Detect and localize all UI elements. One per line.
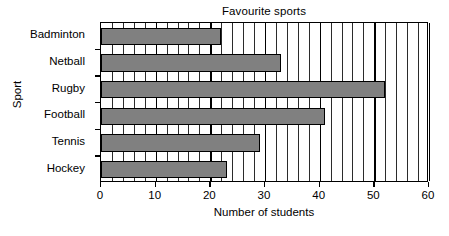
x-axis-title: Number of students bbox=[100, 205, 428, 219]
x-tick-label-0: 0 bbox=[80, 188, 120, 202]
y-tick-label-rugby: Rugby bbox=[52, 82, 85, 95]
x-axis-tick bbox=[319, 182, 320, 187]
x-tick-label-50: 50 bbox=[353, 188, 393, 202]
bar-rugby[interactable] bbox=[101, 81, 385, 99]
y-axis-title: Sport bbox=[11, 65, 24, 125]
x-axis-tick bbox=[264, 182, 265, 187]
y-tick-label-football: Football bbox=[44, 108, 85, 121]
bar-row bbox=[101, 81, 427, 99]
x-axis-tick bbox=[100, 182, 101, 187]
bar-badminton[interactable] bbox=[101, 28, 221, 46]
y-axis-tick bbox=[95, 129, 100, 130]
bars-layer bbox=[101, 23, 427, 181]
x-axis-tick bbox=[373, 182, 374, 187]
x-tick-label-30: 30 bbox=[244, 188, 284, 202]
x-tick-label-20: 20 bbox=[189, 188, 229, 202]
y-axis-tick bbox=[95, 49, 100, 50]
gridline bbox=[429, 23, 430, 181]
y-axis-tick bbox=[95, 155, 100, 156]
bar-hockey[interactable] bbox=[101, 161, 227, 179]
y-tick-label-badminton: Badminton bbox=[30, 28, 85, 41]
x-axis-tick bbox=[209, 182, 210, 187]
bar-row bbox=[101, 28, 427, 46]
x-axis-tick bbox=[428, 182, 429, 187]
bar-row bbox=[101, 108, 427, 126]
y-axis-tick bbox=[95, 102, 100, 103]
y-tick-label-hockey: Hockey bbox=[47, 162, 85, 175]
bar-row bbox=[101, 54, 427, 72]
bar-netball[interactable] bbox=[101, 54, 281, 72]
y-tick-label-tennis: Tennis bbox=[52, 135, 85, 148]
bar-row bbox=[101, 134, 427, 152]
x-tick-label-60: 60 bbox=[408, 188, 448, 202]
bar-chart: Favourite sports Sport BadmintonNetballR… bbox=[0, 0, 449, 236]
plot-area bbox=[100, 22, 428, 182]
y-tick-label-netball: Netball bbox=[49, 55, 85, 68]
x-axis-tick bbox=[155, 182, 156, 187]
y-axis-tick bbox=[95, 75, 100, 76]
bar-tennis[interactable] bbox=[101, 134, 260, 152]
x-tick-label-40: 40 bbox=[299, 188, 339, 202]
x-tick-label-10: 10 bbox=[135, 188, 175, 202]
bar-row bbox=[101, 161, 427, 179]
chart-title: Favourite sports bbox=[100, 4, 428, 18]
bar-football[interactable] bbox=[101, 108, 325, 126]
